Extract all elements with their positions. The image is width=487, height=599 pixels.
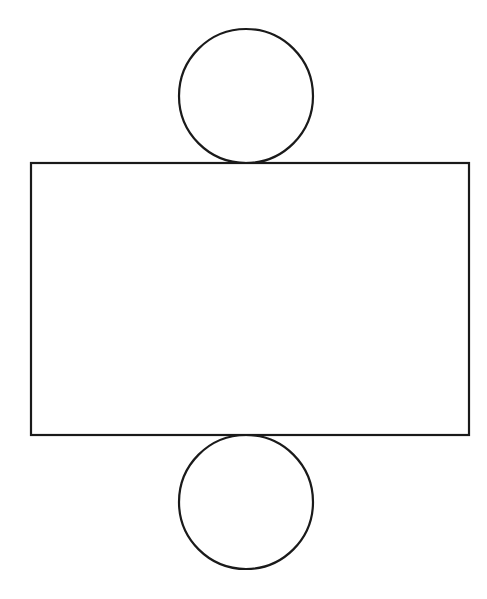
- canvas-background: [0, 0, 487, 599]
- geometric-figure: [0, 0, 487, 599]
- drawing-canvas: Rectangle with two tangent circles: [0, 0, 487, 599]
